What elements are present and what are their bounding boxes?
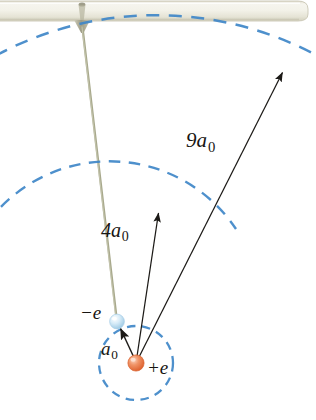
bohr-orbit-figure: 9a0 4a0 a0 −e +e xyxy=(0,0,316,420)
label-9a0: 9a0 xyxy=(186,130,215,154)
connecting-rod xyxy=(82,27,117,322)
label-nucleus-charge: +e xyxy=(147,358,168,377)
label-a0-subscript: 0 xyxy=(111,347,118,362)
label-9a0-subscript: 0 xyxy=(207,139,215,155)
label-electron-charge: −e xyxy=(80,303,101,322)
orbit-arcs xyxy=(0,15,316,400)
electron xyxy=(110,314,125,329)
ceiling-support-bar xyxy=(0,1,308,21)
nucleus xyxy=(128,355,144,371)
label-4a0-subscript: 0 xyxy=(121,229,129,244)
label-a0: a0 xyxy=(101,339,118,362)
label-a0-main: a xyxy=(101,338,111,359)
label-4a0: 4a0 xyxy=(101,220,129,244)
label-4a0-main: 4a xyxy=(101,219,121,241)
orbit-arc-9a0 xyxy=(0,15,316,67)
measure-arrows xyxy=(121,73,283,364)
label-9a0-main: 9a xyxy=(186,128,207,152)
